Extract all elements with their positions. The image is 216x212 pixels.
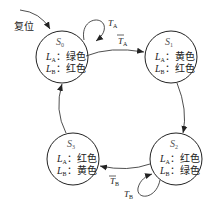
- edge-label-tb-bar: TB: [110, 176, 119, 187]
- svg-text:S0: S0: [56, 36, 64, 48]
- svg-text:LA：红色: LA：红色: [159, 152, 200, 165]
- svg-text:LA：绿色: LA：绿色: [45, 50, 86, 63]
- self-loop-s0: [83, 20, 104, 41]
- reset-label: 复位: [14, 20, 34, 32]
- edge-label-ta-bar: TA: [118, 36, 128, 47]
- svg-text:LB：红色: LB：红色: [45, 62, 86, 75]
- edge-label-ta: TA: [108, 18, 118, 29]
- state-diagram: 复位 S0 LA：绿色 LB：红色 TA TA S1 LA：黄色 LB：红色 S…: [0, 0, 216, 212]
- svg-text:LA：红色: LA：红色: [56, 152, 97, 165]
- svg-text:S1: S1: [165, 36, 173, 48]
- state-s1: S1 LA：黄色 LB：红色: [145, 31, 197, 83]
- edge-label-tb: TB: [124, 189, 133, 200]
- edge-s2-s3: [100, 164, 150, 169]
- state-s3: S3 LA：红色 LB：黄色: [47, 133, 99, 185]
- self-loop-s2: [138, 174, 160, 196]
- edge-s1-s2: [177, 83, 185, 133]
- edge-s3-s0: [59, 84, 66, 133]
- svg-text:LB：绿色: LB：绿色: [159, 164, 200, 177]
- svg-text:LB：黄色: LB：黄色: [56, 164, 97, 177]
- state-s2: S2 LA：红色 LB：绿色: [150, 133, 202, 185]
- edge-s0-s1: [86, 50, 144, 56]
- state-s0: S0 LA：绿色 LB：红色: [36, 31, 88, 83]
- svg-text:S3: S3: [67, 138, 75, 150]
- svg-text:S2: S2: [170, 138, 178, 150]
- svg-text:LB：红色: LB：红色: [154, 62, 195, 75]
- svg-text:LA：黄色: LA：黄色: [154, 50, 195, 63]
